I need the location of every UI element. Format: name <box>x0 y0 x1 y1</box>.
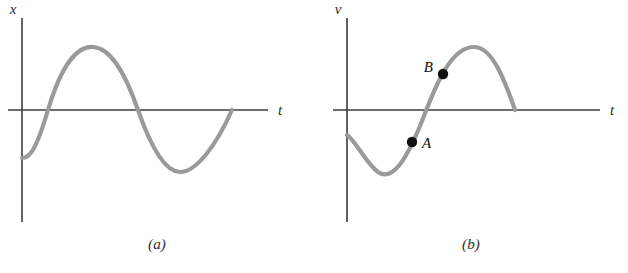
panel-a-x-axis-label: t <box>278 102 283 118</box>
panel-b-y-axis-label: v <box>335 1 342 17</box>
panel-a: x t (a) <box>0 0 314 273</box>
panel-a-caption: (a) <box>0 236 314 253</box>
panel-a-plot: x t <box>0 0 314 240</box>
point-b-dot <box>438 69 448 79</box>
point-b-label: B <box>424 59 433 75</box>
point-a-dot <box>407 137 417 147</box>
panel-b-x-axis-label: t <box>610 102 615 118</box>
panel-b-plot: AB v t <box>314 0 628 240</box>
panel-b-caption: (b) <box>314 236 628 253</box>
physics-figure: x t (a) AB v t (b) <box>0 0 628 273</box>
point-a-label: A <box>421 135 432 151</box>
panel-b: AB v t (b) <box>314 0 628 273</box>
panel-a-y-axis-label: x <box>9 1 17 17</box>
